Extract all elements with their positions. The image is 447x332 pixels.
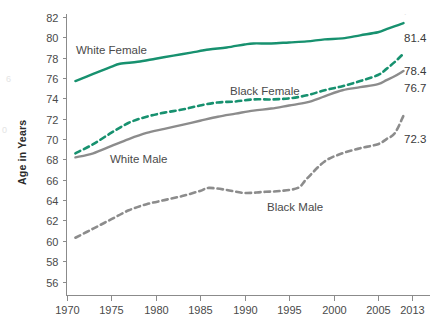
scan-artifact-top-right: . [404, 7, 407, 17]
y-tick-label: 62 [46, 215, 58, 227]
y-tick-labels: 5658606264666870727476788082 [46, 12, 58, 289]
end-label-white-male: 76.7 [404, 82, 426, 94]
end-label-black-female: 78.4 [404, 65, 427, 77]
series-label-white-female: White Female [76, 44, 147, 56]
series-line-black-female [75, 54, 403, 154]
x-tick-label: 1985 [188, 304, 212, 316]
y-tick-label: 80 [46, 32, 58, 44]
y-tick-label: 78 [46, 53, 58, 65]
series-line-black-male [75, 116, 403, 238]
y-tick-marks [63, 18, 67, 283]
x-tick-labels: 197019751980198519901995200020052013 [55, 304, 424, 316]
y-tick-label: 56 [46, 277, 58, 289]
chart-canvas: 6 0 . 5658606264666870727476788082 19701… [0, 0, 447, 332]
series-label-black-female: Black Female [230, 85, 300, 97]
y-tick-label: 64 [46, 195, 58, 207]
x-tick-label: 1975 [99, 304, 123, 316]
life-expectancy-line-chart: 6 0 . 5658606264666870727476788082 19701… [0, 0, 447, 332]
series-label-black-male: Black Male [267, 201, 323, 213]
y-tick-label: 60 [46, 236, 58, 248]
y-tick-label: 82 [46, 12, 58, 24]
y-tick-label: 68 [46, 154, 58, 166]
y-axis: 5658606264666870727476788082 [46, 12, 66, 296]
x-tick-label: 1970 [55, 304, 79, 316]
x-tick-label: 1990 [233, 304, 257, 316]
scan-artifact-left: 6 [6, 74, 11, 84]
x-axis: 197019751980198519901995200020052013 [55, 296, 430, 316]
scan-artifact-left-2: 0 [2, 125, 7, 135]
y-tick-label: 72 [46, 114, 58, 126]
x-tick-label: 1995 [277, 304, 301, 316]
y-tick-label: 70 [46, 134, 58, 146]
x-tick-label: 2013 [400, 304, 424, 316]
x-tick-marks [68, 296, 413, 301]
x-tick-label: 1980 [144, 304, 168, 316]
end-label-black-male: 72.3 [404, 133, 426, 145]
x-tick-label: 2005 [366, 304, 390, 316]
y-tick-label: 58 [46, 256, 58, 268]
end-label-white-female: 81.4 [404, 32, 427, 44]
y-tick-label: 74 [46, 93, 58, 105]
x-tick-label: 2000 [322, 304, 346, 316]
y-tick-label: 66 [46, 175, 58, 187]
y-axis-title: Age in Years [16, 120, 28, 185]
y-tick-label: 76 [46, 73, 58, 85]
series-label-white-male: White Male [110, 153, 168, 165]
